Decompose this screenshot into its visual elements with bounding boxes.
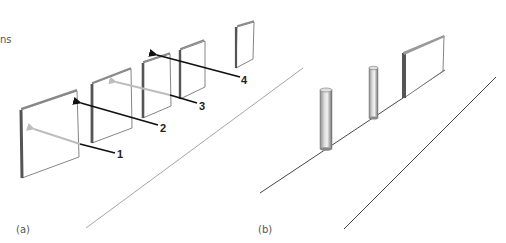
board-2 <box>92 68 132 143</box>
diagram-canvas: ns 4 <box>0 0 506 243</box>
ground-line-b <box>344 77 496 229</box>
arrow-label-1: 1 <box>117 148 123 160</box>
arrow-label-2: 2 <box>160 122 166 134</box>
board-b <box>402 35 445 98</box>
arrow-1-tail <box>80 144 115 153</box>
panel-label-a: (a) <box>16 224 30 235</box>
partial-caption-text: ns <box>0 34 12 45</box>
board-4 <box>180 40 205 99</box>
panel-a: 4 3 2 1 (a) <box>16 21 303 235</box>
cylinder-post-2 <box>369 66 378 119</box>
panel-b: (b) <box>258 35 496 235</box>
arrow-label-4: 4 <box>241 74 248 86</box>
arrow-label-3: 3 <box>199 100 205 112</box>
board-5 <box>236 21 254 68</box>
cylinder-post-1 <box>320 88 332 151</box>
panel-label-b: (b) <box>258 224 272 235</box>
board-3 <box>143 53 171 118</box>
